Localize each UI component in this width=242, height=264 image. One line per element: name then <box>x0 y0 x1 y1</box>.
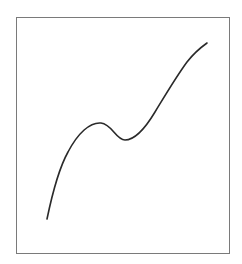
frame-border <box>17 18 230 254</box>
diagram-canvas <box>0 0 242 264</box>
curve <box>47 43 207 219</box>
